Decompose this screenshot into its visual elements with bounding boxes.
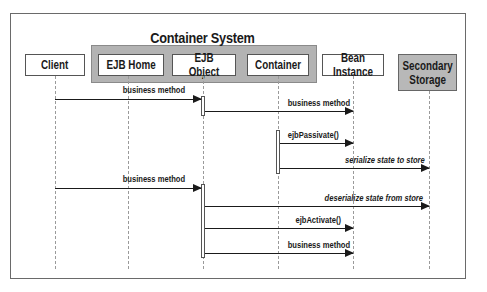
participant-label: Container bbox=[255, 58, 301, 72]
message-arrow bbox=[205, 111, 353, 112]
participant-ejb-object: EJB Object bbox=[172, 54, 236, 76]
message-label: business method bbox=[288, 239, 351, 250]
message-label: business method bbox=[288, 97, 351, 108]
participant-label: Client bbox=[41, 58, 68, 72]
participant-client: Client bbox=[25, 54, 85, 76]
container-system-title: Container System bbox=[107, 29, 298, 46]
lifeline-secondary-storage bbox=[429, 91, 430, 269]
message-label: business method bbox=[123, 173, 186, 184]
participant-container: Container bbox=[247, 54, 309, 76]
activation-ejb-object-2 bbox=[201, 184, 205, 258]
message-arrow bbox=[280, 168, 429, 169]
message-label: deserialize state from store bbox=[325, 192, 423, 203]
message-arrow bbox=[55, 188, 201, 189]
message-arrow bbox=[205, 206, 429, 207]
lifeline-bean-instance bbox=[353, 76, 354, 269]
arrowhead-icon bbox=[345, 249, 354, 257]
message-label: serialize state to store bbox=[345, 154, 425, 165]
message-label: business method bbox=[123, 84, 186, 95]
arrowhead-icon bbox=[193, 95, 202, 103]
message-label: ejbActivate() bbox=[295, 214, 341, 225]
participant-label: EJB Object bbox=[179, 51, 230, 79]
message-arrow bbox=[205, 228, 353, 229]
arrowhead-icon bbox=[421, 202, 430, 210]
participant-label: Bean Instance bbox=[328, 51, 377, 79]
message-arrow bbox=[280, 143, 353, 144]
participant-secondary-storage: Secondary Storage bbox=[398, 54, 457, 91]
message-label: ejbPassivate() bbox=[288, 129, 339, 140]
participant-label: Secondary Storage bbox=[402, 59, 452, 87]
participant-ejb-home: EJB Home bbox=[98, 54, 164, 76]
arrowhead-icon bbox=[345, 107, 354, 115]
arrowhead-icon bbox=[345, 139, 354, 147]
arrowhead-icon bbox=[421, 164, 430, 172]
lifeline-client bbox=[55, 76, 56, 269]
arrowhead-icon bbox=[193, 184, 202, 192]
arrowhead-icon bbox=[345, 224, 354, 232]
message-arrow bbox=[205, 253, 353, 254]
participant-label: EJB Home bbox=[106, 58, 155, 72]
message-arrow bbox=[55, 99, 201, 100]
participant-bean-instance: Bean Instance bbox=[322, 54, 384, 76]
